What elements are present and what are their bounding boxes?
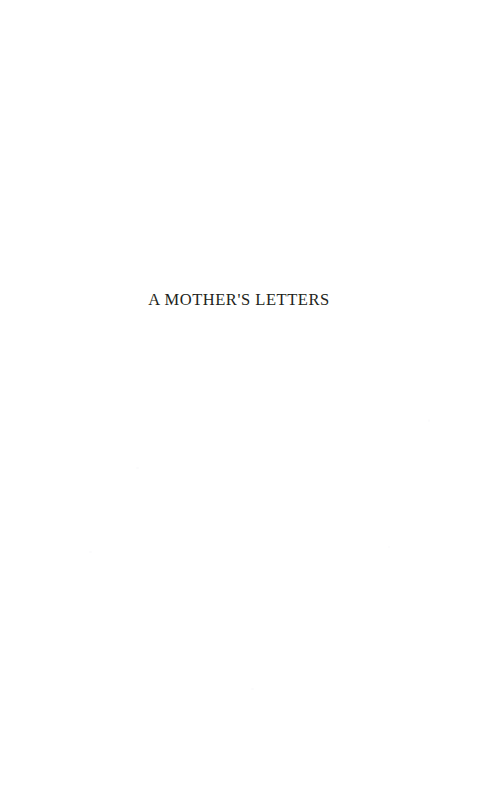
document-page: A MOTHER'S LETTERS — [0, 0, 484, 794]
scan-speck — [388, 546, 390, 548]
scan-speck — [428, 419, 430, 422]
part-title-heading: A MOTHER'S LETTERS — [148, 291, 330, 309]
scan-speck — [89, 551, 92, 553]
scan-speck — [136, 467, 139, 469]
scan-speck — [251, 688, 254, 690]
page-text-block: A MOTHER'S LETTERS — [0, 291, 484, 309]
